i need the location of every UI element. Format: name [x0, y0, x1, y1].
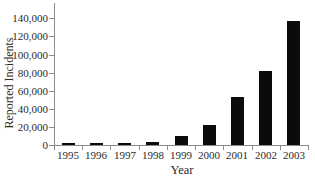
reported-incidents-bar-chart: Reported Incidents Year 020,00040,00060,…: [0, 0, 315, 183]
bar: [203, 125, 216, 145]
y-tick: [49, 91, 54, 92]
y-tick: [49, 109, 54, 110]
y-tick-label: 120,000: [2, 30, 48, 42]
x-tick-label: 1995: [54, 149, 82, 161]
x-tick: [308, 146, 309, 150]
y-tick-label: 80,000: [2, 67, 48, 79]
bar: [62, 143, 75, 145]
y-tick: [49, 36, 54, 37]
y-tick-label: 60,000: [2, 85, 48, 97]
y-tick-label: 20,000: [2, 121, 48, 133]
x-tick-label: 1999: [167, 149, 195, 161]
x-axis-line: [54, 145, 309, 146]
y-tick: [49, 127, 54, 128]
x-tick-label: 1997: [111, 149, 139, 161]
x-tick-label: 1996: [82, 149, 110, 161]
x-tick-label: 2000: [195, 149, 223, 161]
bar: [287, 21, 300, 145]
y-axis-line: [54, 3, 55, 146]
bar: [118, 143, 131, 145]
bar: [90, 143, 103, 145]
bar: [175, 136, 188, 145]
y-tick-label: 140,000: [2, 12, 48, 24]
y-tick: [49, 18, 54, 19]
y-tick-label: 40,000: [2, 103, 48, 115]
x-tick-label: 2001: [223, 149, 251, 161]
y-tick-label: 0: [2, 139, 48, 151]
x-tick-label: 2003: [280, 149, 308, 161]
y-tick: [49, 55, 54, 56]
bar: [146, 142, 159, 145]
x-tick-label: 1998: [139, 149, 167, 161]
y-tick: [49, 73, 54, 74]
y-tick-label: 100,000: [2, 49, 48, 61]
x-axis-title: Year: [152, 163, 212, 177]
bar: [259, 71, 272, 145]
bar: [231, 97, 244, 145]
x-tick-label: 2002: [252, 149, 280, 161]
